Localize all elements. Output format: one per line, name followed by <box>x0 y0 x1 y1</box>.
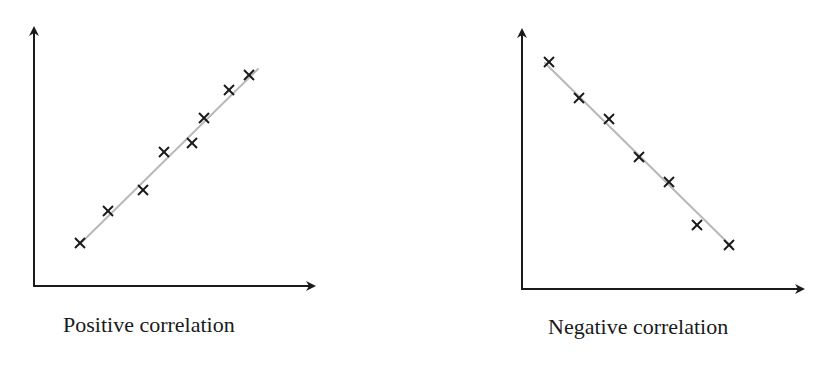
negative-correlation-caption: Negative correlation <box>548 316 728 338</box>
data-point-x-marker-icon <box>604 114 614 124</box>
positive-correlation-chart <box>33 28 314 287</box>
data-point-x-marker-icon <box>634 152 644 162</box>
data-point-x-marker-icon <box>574 93 584 103</box>
data-point-x-marker-icon <box>103 206 113 216</box>
positive-correlation-caption: Positive correlation <box>63 314 235 336</box>
data-point-x-marker-icon <box>724 240 734 250</box>
figure: Positive correlation Negative correlatio… <box>0 0 834 367</box>
data-point-x-marker-icon <box>159 147 169 157</box>
data-point-x-marker-icon <box>187 138 197 148</box>
data-point-x-marker-icon <box>138 185 148 195</box>
trend-line <box>545 63 732 247</box>
negative-correlation-chart <box>521 30 803 290</box>
data-point-x-marker-icon <box>544 57 554 67</box>
data-point-x-marker-icon <box>692 220 702 230</box>
data-point-x-marker-icon <box>224 85 234 95</box>
data-point-x-marker-icon <box>75 238 85 248</box>
